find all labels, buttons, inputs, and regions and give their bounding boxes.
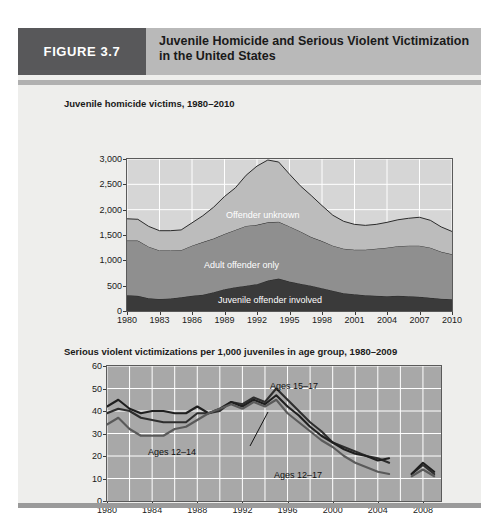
chart1-ytick-2500: 2,500 — [58, 179, 122, 189]
chart1-xtick-mark — [127, 312, 128, 315]
chart2-ytick-mark — [103, 411, 106, 412]
chart1-xtick-mark — [355, 312, 356, 315]
chart2-ytick-mark — [103, 434, 106, 435]
chart2-ytick-40: 40 — [64, 406, 102, 416]
chart1-ytick-2000: 2,000 — [58, 205, 122, 215]
chart1-xtick-mark — [290, 312, 291, 315]
chart1-xtick-1986: 1986 — [182, 315, 202, 325]
figure-title: Juvenile Homicide and Serious Violent Vi… — [159, 34, 471, 64]
chart2-annotation-0: Ages 15–17 — [270, 381, 318, 391]
chart1-xtick-1992: 1992 — [247, 315, 267, 325]
figure-card: FIGURE 3.7 Juvenile Homicide and Serious… — [18, 28, 481, 508]
chart1-ytick-1000: 1,000 — [58, 255, 122, 265]
chart1-ytick-500: 500 — [58, 281, 122, 291]
chart2-ytick-30: 30 — [64, 429, 102, 439]
chart1-ytick-mark — [123, 210, 126, 211]
figure-number-badge: FIGURE 3.7 — [18, 28, 146, 75]
chart1-ytick-0: 0 — [58, 306, 122, 316]
chart2-ytick-60: 60 — [64, 361, 102, 371]
chart2-ytick-mark — [103, 501, 106, 502]
chart1-xtick-2010: 2010 — [442, 315, 462, 325]
chart2-ytick-20: 20 — [64, 451, 102, 461]
header-divider-rule — [18, 80, 481, 85]
chart1-ytick-mark — [123, 235, 126, 236]
chart2-annotation-2: Ages 12–17 — [274, 470, 322, 480]
chart1-ytick-mark — [123, 184, 126, 185]
chart1-xtick-1998: 1998 — [312, 315, 332, 325]
chart2-ytick-50: 50 — [64, 384, 102, 394]
chart1-xtick-2001: 2001 — [344, 315, 364, 325]
chart1-ytick-mark — [123, 159, 126, 160]
chart2-ytick-mark — [103, 366, 106, 367]
chart1-xtick-1983: 1983 — [149, 315, 169, 325]
chart1-ytick-mark — [123, 311, 126, 312]
figure-title-line-2: in the United States — [159, 49, 471, 64]
chart1-ytick-3000: 3,000 — [58, 154, 122, 164]
figure-header: FIGURE 3.7 Juvenile Homicide and Serious… — [18, 28, 481, 75]
figure-number-label: FIGURE 3.7 — [44, 44, 121, 59]
chart1-xtick-mark — [420, 312, 421, 315]
chart1-plot-area — [126, 158, 453, 312]
footer-divider-rule — [18, 503, 481, 508]
chart1-xtick-mark — [452, 312, 453, 315]
chart1-xtick-mark — [192, 312, 193, 315]
chart1-xtick-1995: 1995 — [279, 315, 299, 325]
chart1-svg — [127, 159, 452, 311]
chart1-area-label-2: Offender unknown — [226, 210, 299, 220]
chart1-area-label-1: Adult offender only — [204, 260, 279, 270]
chart2-title: Serious violent victimizations per 1,000… — [64, 346, 397, 357]
chart1-xtick-1980: 1980 — [117, 315, 137, 325]
chart1-xtick-mark — [387, 312, 388, 315]
chart2-ytick-10: 10 — [64, 474, 102, 484]
chart2-ytick-mark — [103, 479, 106, 480]
chart1-ytick-mark — [123, 286, 126, 287]
chart1-xtick-mark — [160, 312, 161, 315]
chart1-xtick-mark — [322, 312, 323, 315]
chart1-xtick-2004: 2004 — [377, 315, 397, 325]
chart1-ytick-mark — [123, 260, 126, 261]
chart1-xtick-1989: 1989 — [214, 315, 234, 325]
chart1-xtick-mark — [257, 312, 258, 315]
chart1-xtick-mark — [225, 312, 226, 315]
chart1-title: Juvenile homicide victims, 1980–2010 — [64, 98, 235, 109]
figure-title-line-1: Juvenile Homicide and Serious Violent Vi… — [159, 34, 471, 49]
chart2-ytick-mark — [103, 456, 106, 457]
chart2-annotation-1: Ages 12–14 — [148, 447, 196, 457]
chart1-ytick-1500: 1,500 — [58, 230, 122, 240]
chart2-ytick-mark — [103, 389, 106, 390]
chart1-xtick-2007: 2007 — [409, 315, 429, 325]
chart1-area-label-0: Juvenile offender involved — [218, 295, 322, 305]
